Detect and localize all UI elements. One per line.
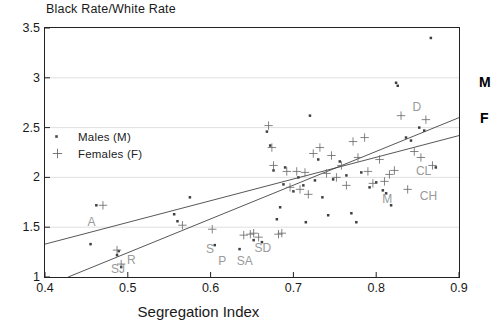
male-data-point (395, 82, 398, 85)
y-tick-label: 1.5 (23, 220, 40, 234)
female-data-point (349, 137, 357, 145)
female-data-point (342, 181, 350, 189)
y-tick-label: 2 (33, 170, 40, 184)
x-tick-label: 0.7 (285, 281, 302, 295)
female-data-point (208, 225, 216, 233)
female-data-point (254, 233, 262, 241)
male-data-point (269, 144, 272, 147)
y-tick-label: 3 (33, 71, 40, 85)
male-data-point (314, 179, 317, 182)
male-data-point (435, 166, 438, 169)
city-annotation-sj: SJ (111, 262, 125, 276)
male-dot-icon (52, 132, 78, 141)
legend-item-females: Females (F) (52, 145, 182, 162)
female-data-point (99, 201, 107, 209)
city-annotation-p: P (218, 254, 226, 268)
male-data-point (266, 130, 269, 133)
male-data-point (410, 139, 413, 142)
male-data-point (89, 243, 92, 246)
legend: Males (M) Females (F) (52, 128, 182, 162)
y-axis-tick-labels: 11.522.533.5 (0, 27, 40, 278)
male-data-point (95, 204, 98, 207)
male-data-point (396, 85, 399, 88)
male-data-point (321, 196, 324, 199)
female-data-point (410, 147, 418, 155)
male-data-point (368, 186, 371, 189)
female-data-point (283, 167, 291, 175)
female-plus-icon (52, 148, 78, 159)
male-data-point (345, 174, 348, 177)
male-data-point (360, 171, 363, 174)
male-data-point (189, 196, 192, 199)
female-data-point (293, 167, 301, 175)
x-axis-title: Segregation Index (0, 303, 449, 320)
male-data-point (430, 37, 433, 40)
legend-label-males: Males (M) (78, 131, 131, 143)
x-tick-label: 0.4 (36, 281, 53, 295)
chart-title: Black Rate/White Rate (46, 2, 176, 16)
city-annotation-m: M (382, 192, 392, 206)
female-data-point (269, 161, 277, 169)
legend-label-females: Females (F) (78, 148, 142, 160)
female-data-point (327, 151, 335, 159)
male-data-point (282, 183, 285, 186)
female-data-point (380, 177, 388, 185)
city-annotation-r: R (127, 253, 136, 267)
city-annotation-d: D (413, 100, 422, 114)
male-data-point (382, 189, 385, 192)
female-data-point (397, 111, 405, 119)
legend-item-males: Males (M) (52, 128, 182, 145)
y-tick-label: 2.5 (23, 121, 40, 135)
female-data-point (113, 246, 121, 254)
female-data-point (360, 133, 368, 141)
female-data-point (316, 143, 324, 151)
male-data-point (173, 213, 176, 216)
male-data-point (276, 218, 279, 221)
male-data-point (284, 166, 287, 169)
male-data-point (317, 158, 320, 161)
female-data-point (304, 190, 312, 198)
city-annotation-ch: CH (420, 189, 437, 203)
female-data-point (309, 149, 317, 157)
male-data-point (302, 184, 305, 187)
male-data-point (339, 160, 342, 163)
female-data-point (337, 161, 345, 169)
city-annotation-sa: SA (237, 254, 253, 268)
female-data-point (422, 115, 430, 123)
female-data-point (390, 166, 398, 174)
female-data-point (375, 155, 383, 163)
female-data-point (240, 231, 248, 239)
male-data-point (176, 220, 179, 223)
male-data-point (418, 126, 421, 129)
male-data-point (305, 221, 308, 224)
x-tick-label: 0.9 (450, 281, 467, 295)
male-data-point (297, 176, 300, 179)
male-data-point (350, 212, 353, 215)
male-data-point (279, 206, 282, 209)
female-data-point (264, 121, 272, 129)
female-data-point (403, 185, 411, 193)
x-tick-label: 0.8 (367, 281, 384, 295)
city-annotation-cl: CL (416, 164, 431, 178)
city-annotation-s: S (206, 242, 214, 256)
fit-line-label-males: M (479, 74, 491, 90)
city-annotation-sd: SD (255, 241, 272, 255)
male-data-point (309, 114, 312, 117)
city-annotation-a: A (88, 215, 96, 229)
female-data-point (364, 167, 372, 175)
male-data-point (332, 178, 335, 181)
male-data-point (405, 136, 408, 139)
female-data-point (417, 153, 425, 161)
female-data-point (268, 143, 276, 151)
male-data-point (292, 190, 295, 193)
female-data-point (178, 221, 186, 229)
scatter-chart: Black Rate/White Rate 11.522.533.5 ASJRS… (0, 0, 501, 329)
male-data-point (355, 221, 358, 224)
male-data-point (327, 214, 330, 217)
male-data-point (423, 129, 426, 132)
x-axis-tick-labels: 0.40.50.60.70.80.9 (44, 281, 460, 301)
x-tick-label: 0.5 (119, 281, 136, 295)
x-tick-label: 0.6 (202, 281, 219, 295)
fit-line-label-females: F (480, 110, 489, 126)
male-data-point (238, 248, 241, 251)
